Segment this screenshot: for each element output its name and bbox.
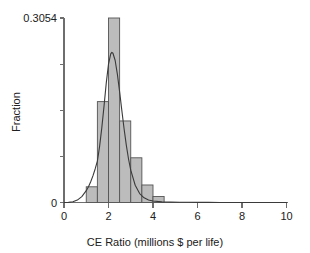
x-axis-ticks: [64, 203, 287, 208]
x-tick-label: 10: [280, 210, 292, 222]
plot-canvas: 00.3054 0246810 CE Ratio (millions $ per…: [0, 0, 310, 253]
y-tick-label: 0.3054: [23, 12, 57, 24]
histogram-bar: [131, 158, 142, 203]
x-axis-tick-labels: 0246810: [61, 210, 293, 222]
x-tick-label: 8: [239, 210, 245, 222]
x-tick-label: 2: [105, 210, 111, 222]
x-tick-label: 0: [61, 210, 67, 222]
histogram-bar: [86, 187, 97, 203]
x-axis-title: CE Ratio (millions $ per life): [87, 236, 223, 248]
x-tick-label: 4: [150, 210, 156, 222]
y-axis-title: Fraction: [10, 92, 22, 132]
histogram-bars: [86, 18, 164, 203]
histogram-figure: 00.3054 0246810 CE Ratio (millions $ per…: [0, 0, 310, 253]
y-axis-ticks: [60, 18, 64, 203]
y-axis-tick-labels: 00.3054: [23, 12, 57, 209]
y-tick-label: 0: [51, 197, 57, 209]
x-tick-label: 6: [194, 210, 200, 222]
histogram-bar: [109, 18, 120, 203]
